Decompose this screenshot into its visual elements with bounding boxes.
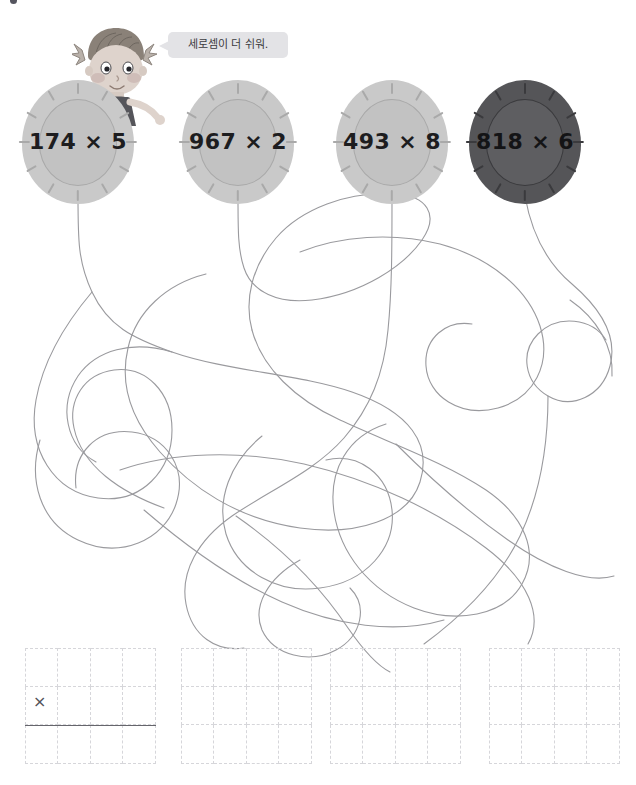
answer-grid-cell[interactable] [555,648,588,687]
answer-grid-cell[interactable] [396,687,429,726]
answer-grid-row [489,687,620,726]
balloon-1-expression: 174 × 5 [22,127,134,157]
answer-grid-1[interactable]: × [25,648,156,764]
answer-grid-cell[interactable] [522,648,555,687]
answer-grid-cell[interactable] [396,648,429,687]
string-path-4b [424,396,548,644]
answer-grid-cell[interactable] [428,648,461,687]
answer-grid-cell[interactable] [363,648,396,687]
balloon-tick-mark [391,190,393,201]
balloon-4-expression: 818 × 6 [469,127,581,157]
balloon-tick-mark [77,190,79,201]
answer-grid-cell[interactable] [363,687,396,726]
answer-grid-row [181,648,312,687]
answer-grid-cell[interactable] [587,648,620,687]
string-path-1b [34,292,172,508]
answer-grid-cell[interactable] [91,648,124,687]
answer-grid-cell[interactable] [330,687,363,726]
answer-grid-cell[interactable] [181,687,214,726]
balloon-tick-mark [237,190,239,201]
answer-grid-cell[interactable] [25,648,58,687]
string-path-3b [300,237,544,410]
answer-grid-cell[interactable] [58,687,91,726]
balloon-3[interactable]: 493 × 8 [336,80,448,204]
string-path-loop-i [67,347,172,462]
answer-grid-row [489,725,620,764]
answer-grid-cell[interactable] [330,648,363,687]
worksheet-page: 세로셈이 더 쉬워. 174 × 5 967 × 2 493 × 8 818 ×… [0,0,636,785]
answer-grid-cell[interactable] [123,687,156,726]
balloon-tick-mark [524,190,526,201]
speech-bubble-text: 세로셈이 더 쉬워. [168,32,288,58]
answer-grid-cell[interactable] [247,648,280,687]
answer-grid-cell[interactable] [428,725,461,764]
answer-grid-cell[interactable] [181,725,214,764]
string-path-1 [78,196,423,530]
balloon-tick-mark [77,83,79,94]
answer-grid-cell[interactable] [123,725,156,764]
balloon-1[interactable]: 174 × 5 [22,80,134,204]
answer-grid-cell[interactable] [123,648,156,687]
string-path-2 [238,193,430,330]
answer-grid-cell[interactable] [330,725,363,764]
balloon-4[interactable]: 818 × 6 [469,80,581,204]
answer-grid-cell[interactable] [279,648,312,687]
answer-grid-cell[interactable] [181,648,214,687]
balloon-2-expression: 967 × 2 [182,127,294,157]
answer-grid-cell[interactable] [214,648,247,687]
answer-grid-1-sum-rule [25,725,156,726]
answer-grid-cell[interactable] [522,725,555,764]
answer-grid-cell[interactable] [555,687,588,726]
answer-grid-cell[interactable] [91,687,124,726]
answer-grid-cell[interactable] [279,687,312,726]
answer-grid-row [489,648,620,687]
answer-grid-cell[interactable] [58,648,91,687]
answer-grid-cell[interactable] [489,648,522,687]
answer-grid-cell[interactable] [214,687,247,726]
speech-bubble: 세로셈이 더 쉬워. [168,32,288,58]
string-path-3 [185,196,392,649]
string-path-loop-b [120,455,534,644]
string-path-4 [525,196,612,401]
balloon-tick-mark [391,83,393,94]
balloon-tick-mark [524,83,526,94]
answer-grid-row [181,687,312,726]
answer-grid-cell[interactable] [489,687,522,726]
answer-grid-cell[interactable] [363,725,396,764]
string-path-loop-c [223,436,393,589]
answer-grid-cell[interactable] [58,725,91,764]
answer-grid-3[interactable] [330,648,461,764]
answer-grid-cell[interactable] [555,725,588,764]
balloon-3-expression: 493 × 8 [336,127,448,157]
answer-grid-cell[interactable] [428,687,461,726]
answer-grid-1-times-symbol: × [33,693,46,711]
answer-grid-cell[interactable] [587,725,620,764]
balloon-2[interactable]: 967 × 2 [182,80,294,204]
answer-grid-cell[interactable] [25,725,58,764]
answer-grid-cell[interactable] [247,687,280,726]
answer-grid-cell[interactable] [522,687,555,726]
answer-grid-row [25,725,156,764]
answer-grid-cell[interactable] [214,725,247,764]
string-path-loop-d [259,560,360,657]
answer-grid-4[interactable] [489,648,620,764]
answer-grid-2[interactable] [181,648,312,764]
answer-grid-cell[interactable] [279,725,312,764]
answer-grid-row [181,725,312,764]
answer-grid-row [330,725,461,764]
balloon-tick-mark [237,83,239,94]
string-path-loop-h [570,300,612,376]
answer-grid-cell[interactable] [91,725,124,764]
answer-grid-row [330,648,461,687]
answer-grid-cell[interactable] [247,725,280,764]
answer-grid-cell[interactable] [396,725,429,764]
answer-grid-row [25,648,156,687]
answer-grid-cell[interactable] [587,687,620,726]
answer-grid-cell[interactable] [489,725,522,764]
answer-grid-row [330,687,461,726]
string-path-2b [252,330,529,616]
